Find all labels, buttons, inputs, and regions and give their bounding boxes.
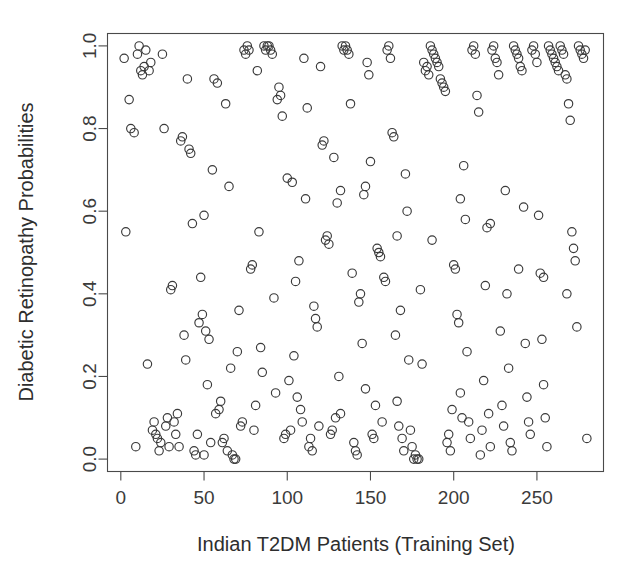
data-point — [170, 418, 178, 426]
data-point — [428, 236, 436, 244]
y-tick-label: 0.6 — [79, 198, 100, 224]
data-point — [202, 327, 210, 335]
data-point — [290, 352, 298, 360]
data-point — [396, 306, 404, 314]
y-tick-label: 0.0 — [79, 446, 100, 472]
data-point — [466, 434, 474, 442]
data-point — [393, 397, 401, 405]
data-point — [486, 443, 494, 451]
data-point — [360, 190, 368, 198]
data-point — [158, 50, 166, 58]
data-point — [508, 447, 516, 455]
data-point — [463, 347, 471, 355]
data-point — [333, 199, 341, 207]
data-point — [200, 451, 208, 459]
data-point — [316, 62, 324, 70]
data-point — [445, 430, 453, 438]
data-point — [395, 422, 403, 430]
data-point — [208, 166, 216, 174]
data-point — [258, 368, 266, 376]
data-point — [464, 418, 472, 426]
data-point — [476, 451, 484, 459]
data-point — [271, 389, 279, 397]
plot-canvas: 050100150200250 0.00.20.40.60.81.0 India… — [0, 0, 624, 578]
data-point — [206, 438, 214, 446]
data-point — [250, 426, 258, 434]
x-tick-label: 200 — [438, 487, 470, 508]
data-point — [371, 401, 379, 409]
data-point — [448, 405, 456, 413]
data-point — [221, 100, 229, 108]
data-point — [454, 319, 462, 327]
data-point — [346, 100, 354, 108]
data-point — [539, 381, 547, 389]
data-point — [496, 327, 504, 335]
data-point — [295, 257, 303, 265]
y-tick-label: 0.8 — [79, 115, 100, 141]
data-point — [275, 83, 283, 91]
data-point — [172, 430, 180, 438]
data-point — [150, 418, 158, 426]
data-point — [403, 207, 411, 215]
y-tick-label: 0.4 — [79, 280, 100, 307]
x-tick-label: 100 — [271, 487, 303, 508]
data-point — [499, 422, 507, 430]
data-point — [363, 58, 371, 66]
data-point — [534, 211, 542, 219]
data-point — [568, 228, 576, 236]
data-point — [203, 381, 211, 389]
data-point — [358, 339, 366, 347]
x-tick-label: 150 — [355, 487, 387, 508]
data-point — [391, 331, 399, 339]
data-point — [524, 418, 532, 426]
x-axis-ticks: 050100150200250 — [116, 472, 553, 508]
data-point — [461, 215, 469, 223]
data-point — [165, 443, 173, 451]
data-point — [225, 182, 233, 190]
data-point — [498, 401, 506, 409]
data-point — [142, 46, 150, 54]
data-point — [386, 54, 394, 62]
data-point — [569, 244, 577, 252]
data-point — [350, 438, 358, 446]
data-point — [183, 75, 191, 83]
data-point — [401, 170, 409, 178]
data-point — [504, 364, 512, 372]
data-point — [251, 401, 259, 409]
data-point — [543, 443, 551, 451]
data-points-layer — [120, 42, 591, 464]
y-axis-title: Diabetic Retinopathy Probabilities — [15, 102, 37, 401]
data-point — [162, 422, 170, 430]
data-point — [479, 376, 487, 384]
data-point — [526, 430, 534, 438]
data-point — [310, 302, 318, 310]
data-point — [256, 343, 264, 351]
data-point — [456, 389, 464, 397]
data-point — [216, 397, 224, 405]
data-point — [564, 100, 572, 108]
data-point — [418, 360, 426, 368]
data-point — [533, 58, 541, 66]
data-point — [405, 356, 413, 364]
data-point — [291, 277, 299, 285]
data-point — [400, 447, 408, 455]
data-point — [398, 434, 406, 442]
data-point — [303, 104, 311, 112]
data-point — [195, 319, 203, 327]
data-point — [361, 385, 369, 393]
data-point — [361, 182, 369, 190]
data-point — [188, 219, 196, 227]
data-point — [315, 422, 323, 430]
data-point — [406, 426, 414, 434]
data-point — [473, 91, 481, 99]
data-point — [311, 314, 319, 322]
data-point — [173, 409, 181, 417]
data-point — [335, 372, 343, 380]
data-point — [200, 211, 208, 219]
data-point — [348, 269, 356, 277]
data-point — [330, 153, 338, 161]
data-point — [120, 54, 128, 62]
data-point — [481, 281, 489, 289]
x-tick-label: 50 — [193, 487, 214, 508]
data-point — [155, 447, 163, 455]
